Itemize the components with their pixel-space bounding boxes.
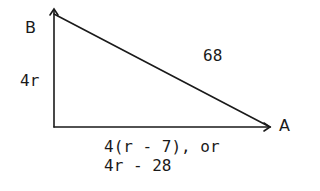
hypotenuse-label: 68 bbox=[203, 47, 222, 65]
vertex-label-a: A bbox=[279, 117, 290, 135]
base-label-line2: 4r - 28 bbox=[104, 157, 171, 175]
vertex-label-b: B bbox=[25, 19, 36, 37]
base-label-line1: 4(r - 7), or bbox=[104, 138, 220, 156]
hypotenuse bbox=[54, 14, 270, 127]
vertical-side-label: 4r bbox=[20, 72, 39, 90]
